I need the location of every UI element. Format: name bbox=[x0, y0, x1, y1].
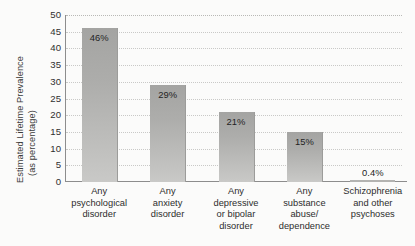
bar: 21% bbox=[219, 112, 255, 182]
category-label-line: and other bbox=[339, 198, 407, 210]
category-label-line: psychological bbox=[65, 198, 133, 210]
y-axis-tick-25: 25 bbox=[41, 94, 61, 104]
x-axis-category-label: Anypsychologicaldisorder bbox=[65, 186, 133, 221]
y-axis-tick-35: 35 bbox=[41, 60, 61, 70]
bar: 46% bbox=[82, 28, 118, 182]
category-label-line: Any bbox=[270, 186, 338, 198]
x-axis-category-label: Anysubstanceabuse/dependence bbox=[270, 186, 338, 232]
category-label-line: Any bbox=[65, 186, 133, 198]
bar: 15% bbox=[287, 132, 323, 182]
bar-slot: 15% bbox=[287, 15, 322, 182]
category-label-line: Schizophrenia bbox=[339, 186, 407, 198]
plot-area: 46%29%21%15%0.4% bbox=[65, 15, 407, 182]
y-axis-title: Estimated Lifetime Prevalence (as percen… bbox=[0, 0, 40, 190]
bar: 0.4% bbox=[350, 180, 395, 183]
category-label-line: disorder bbox=[202, 221, 270, 233]
y-axis-tick-5: 5 bbox=[41, 161, 61, 171]
y-axis-tick-40: 40 bbox=[41, 44, 61, 54]
bar-value-label: 0.4% bbox=[350, 167, 395, 178]
category-label-line: psychoses bbox=[339, 209, 407, 221]
category-label-line: disorder bbox=[133, 209, 201, 221]
y-axis-title-line-2: (as percentage) bbox=[27, 110, 37, 176]
category-label-line: anxiety bbox=[133, 198, 201, 210]
category-label-line: Any bbox=[133, 186, 201, 198]
x-axis-category-label: Schizophreniaand otherpsychoses bbox=[339, 186, 407, 221]
category-label-line: disorder bbox=[65, 209, 133, 221]
y-axis-tick-50: 50 bbox=[41, 10, 61, 20]
bar-slot: 0.4% bbox=[355, 15, 390, 182]
bar-value-label: 15% bbox=[287, 136, 322, 147]
category-label-line: substance bbox=[270, 198, 338, 210]
bar-slot: 46% bbox=[82, 15, 117, 182]
bar-slot: 21% bbox=[219, 15, 254, 182]
y-axis-tick-10: 10 bbox=[41, 144, 61, 154]
bar-chart-figure: Estimated Lifetime Prevalence (as percen… bbox=[0, 0, 415, 246]
bar-slot: 29% bbox=[150, 15, 185, 182]
category-label-line: or bipolar bbox=[202, 209, 270, 221]
bar-value-label: 29% bbox=[150, 89, 185, 100]
x-axis-category-label: Anydepressiveor bipolardisorder bbox=[202, 186, 270, 232]
bar-series: 46%29%21%15%0.4% bbox=[65, 15, 407, 182]
y-axis-tick-0: 0 bbox=[41, 177, 61, 187]
y-axis-tick-30: 30 bbox=[41, 77, 61, 87]
y-axis-tick-15: 15 bbox=[41, 127, 61, 137]
category-label-line: dependence bbox=[270, 221, 338, 233]
bar-value-label: 21% bbox=[219, 116, 254, 127]
category-label-line: depressive bbox=[202, 198, 270, 210]
y-axis-tick-20: 20 bbox=[41, 110, 61, 120]
bar-value-label: 46% bbox=[82, 32, 117, 43]
category-label-line: abuse/ bbox=[270, 209, 338, 221]
bar: 29% bbox=[150, 85, 186, 182]
y-axis-title-line-1: Estimated Lifetime Prevalence bbox=[15, 56, 25, 183]
x-axis-category-label: Anyanxietydisorder bbox=[133, 186, 201, 221]
y-axis-tick-labels: 50454035302520151050 bbox=[41, 15, 61, 182]
y-axis-tick-45: 45 bbox=[41, 27, 61, 37]
x-axis-category-labels: AnypsychologicaldisorderAnyanxietydisord… bbox=[65, 186, 407, 244]
category-label-line: Any bbox=[202, 186, 270, 198]
